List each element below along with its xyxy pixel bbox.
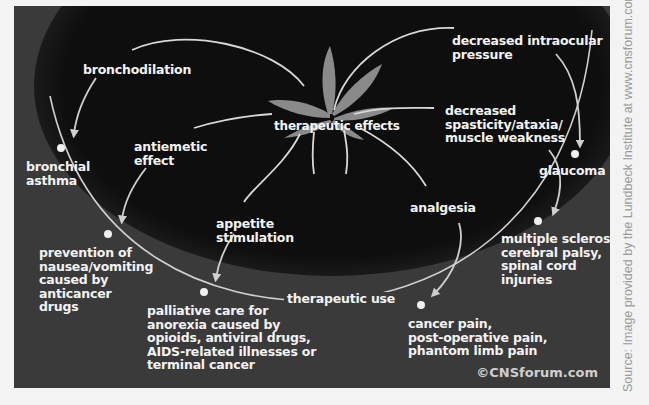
use-glaucoma: glaucoma — [539, 164, 605, 178]
source-caption: Source: Image provided by the Lundbeck I… — [621, 0, 635, 392]
use-dot-cancer-pain — [417, 301, 425, 309]
effect-decreased-spasticity: decreased spasticity/ataxia/ muscle weak… — [445, 104, 565, 145]
use-multiple-sclerosis: multiple sclerosis, cerebral palsy, spin… — [501, 232, 610, 286]
use-dot-nausea — [104, 230, 112, 238]
center-label: therapeutic effects — [274, 120, 400, 134]
use-palliative-care: palliative care for anorexia caused by o… — [147, 304, 316, 372]
effect-antiemetic: antiemetic effect — [134, 140, 207, 167]
effect-bronchodilation: bronchodilation — [83, 63, 191, 77]
use-dot-multiple-sclerosis — [534, 217, 542, 225]
use-dot-palliative-care — [200, 288, 208, 296]
diagram-panel: therapeutic effects bronchodilation anti… — [14, 6, 610, 388]
effect-decreased-intraocular-pressure: decreased intraocular pressure — [452, 34, 602, 61]
use-dot-glaucoma — [571, 150, 579, 158]
ring-label: therapeutic use — [284, 292, 398, 306]
use-pain: cancer pain, post-operative pain, phanto… — [408, 317, 547, 358]
effect-appetite-stimulation: appetite stimulation — [216, 217, 294, 244]
use-dot-bronchial-asthma — [57, 144, 65, 152]
use-bronchial-asthma: bronchial asthma — [26, 160, 90, 187]
credit-text: ©CNSforum.com — [476, 365, 598, 380]
effect-analgesia: analgesia — [410, 201, 476, 215]
use-nausea-vomiting: prevention of nausea/vomiting caused by … — [39, 246, 153, 314]
